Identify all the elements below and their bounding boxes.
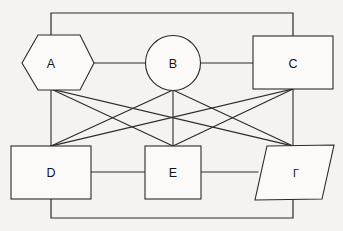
node-f-label: Γ xyxy=(293,167,299,179)
node-d[interactable]: D xyxy=(11,146,91,199)
node-e-label: E xyxy=(169,166,177,180)
graph-svg: A B C D E Γ xyxy=(0,0,343,231)
node-d-label: D xyxy=(46,166,55,180)
diagonal-edges xyxy=(51,89,293,146)
diagram-canvas: A B C D E Γ xyxy=(0,0,343,231)
edge-a-to-c-perimeter-top xyxy=(51,13,293,36)
node-c-label: C xyxy=(288,57,297,71)
node-f[interactable]: Γ xyxy=(255,145,334,200)
node-a-label: A xyxy=(47,57,56,71)
hexagon-shape xyxy=(22,35,94,90)
node-e[interactable]: E xyxy=(145,146,201,199)
node-b[interactable]: B xyxy=(146,36,201,91)
node-b-label: B xyxy=(169,57,177,71)
node-c[interactable]: C xyxy=(253,36,333,89)
node-a[interactable]: A xyxy=(22,35,94,90)
edge-d-to-f-perimeter-bottom xyxy=(51,199,293,218)
